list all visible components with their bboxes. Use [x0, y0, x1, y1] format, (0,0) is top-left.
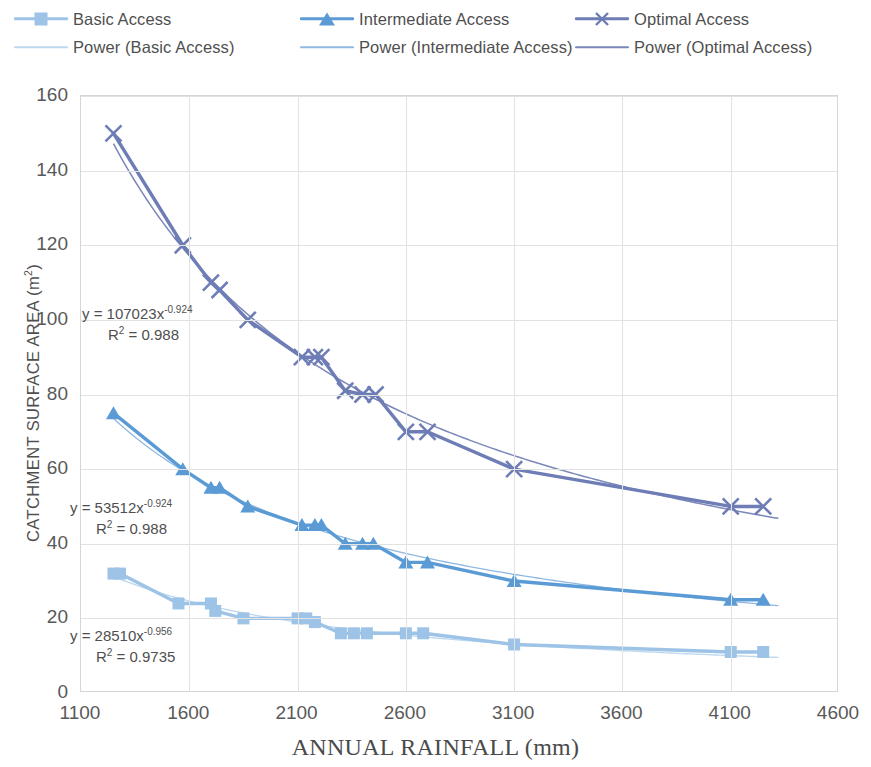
data-point-triangle — [106, 406, 121, 419]
triangle-marker — [300, 9, 354, 29]
data-point-square — [348, 627, 360, 639]
legend-item-label: Power (Basic Access) — [73, 38, 235, 57]
y-axis-title: CATCHMENT SURFACE AREA (m2) — [22, 263, 43, 541]
square-marker — [14, 9, 68, 29]
x-axis-tick-label: 1100 — [60, 702, 101, 724]
intermediate-equation: y = 53512x-0.924R2 = 0.988 — [70, 497, 172, 539]
gridline-horizontal — [81, 618, 837, 619]
y-axis-tick-label: 80 — [47, 383, 68, 405]
equation-text: y = 28510x-0.956 — [70, 627, 172, 644]
legend-row-series: Basic AccessIntermediate AccessOptimal A… — [0, 6, 871, 32]
data-point-square — [335, 627, 347, 639]
trendline — [113, 577, 778, 658]
equation-text: y = 53512x-0.924 — [70, 499, 172, 516]
legend-item[interactable]: Power (Optimal Access) — [575, 34, 812, 60]
gridline-vertical — [514, 96, 515, 691]
y-axis-tick-label: 160 — [36, 84, 68, 106]
data-point-square — [757, 646, 769, 658]
data-point-square — [209, 605, 221, 617]
x-marker — [575, 9, 629, 29]
legend-item[interactable]: Power (Basic Access) — [14, 34, 235, 60]
basic-equation: y = 28510x-0.956R2 = 0.9735 — [70, 625, 175, 667]
chart-container: Basic AccessIntermediate AccessOptimal A… — [0, 0, 871, 767]
gridline-horizontal — [81, 96, 837, 97]
x-axis-tick-label: 4600 — [817, 702, 859, 724]
gridline-horizontal — [81, 320, 837, 321]
y-axis-tick-label: 0 — [57, 681, 68, 703]
legend-line — [575, 46, 629, 48]
x-icon — [593, 10, 611, 28]
square-icon — [35, 13, 48, 26]
gridline-vertical — [406, 96, 407, 691]
legend-row-trendlines: Power (Basic Access)Power (Intermediate … — [0, 34, 871, 60]
gridline-horizontal — [81, 395, 837, 396]
gridline-vertical — [622, 96, 623, 691]
y-axis-tick-label: 140 — [36, 159, 68, 181]
r-squared-text: R2 = 0.9735 — [70, 646, 175, 667]
equation-text: y = 107023x-0.924 — [82, 305, 193, 322]
trendline — [113, 144, 778, 519]
r-squared-text: R2 = 0.988 — [82, 324, 193, 345]
legend-line — [14, 46, 68, 48]
x-axis-tick-label: 4100 — [709, 702, 751, 724]
line-marker — [300, 37, 354, 57]
x-axis-tick-label: 2100 — [275, 702, 317, 724]
gridline-vertical — [189, 96, 190, 691]
chart-legend: Basic AccessIntermediate AccessOptimal A… — [0, 0, 871, 62]
gridline-horizontal — [81, 544, 837, 545]
legend-item-label: Power (Intermediate Access) — [359, 38, 573, 57]
line-marker — [14, 37, 68, 57]
r-squared-text: R2 = 0.988 — [70, 518, 172, 539]
gridline-horizontal — [81, 469, 837, 470]
data-point-x — [105, 125, 121, 141]
data-point-x — [212, 282, 228, 298]
gridline-vertical — [298, 96, 299, 691]
legend-item-label: Power (Optimal Access) — [634, 38, 812, 57]
data-point-square — [114, 568, 126, 580]
gridline-horizontal — [81, 171, 837, 172]
data-point-square — [172, 597, 184, 609]
series-line — [113, 413, 763, 600]
legend-item[interactable]: Basic Access — [14, 6, 171, 32]
y-axis-tick-label: 20 — [47, 606, 68, 628]
x-axis-title: ANNUAL RAINFALL (mm) — [0, 734, 871, 761]
legend-item-label: Optimal Access — [634, 10, 749, 29]
gridline-vertical — [731, 96, 732, 691]
legend-item[interactable]: Intermediate Access — [300, 6, 509, 32]
series-group — [107, 568, 778, 658]
triangle-icon — [319, 13, 335, 26]
legend-item-label: Intermediate Access — [359, 10, 509, 29]
plot-area — [80, 95, 838, 692]
legend-item-label: Basic Access — [73, 10, 171, 29]
y-axis-tick-label: 60 — [47, 457, 68, 479]
legend-item[interactable]: Optimal Access — [575, 6, 749, 32]
data-point-square — [361, 627, 373, 639]
x-axis-tick-label: 1600 — [167, 702, 209, 724]
y-axis-tick-label: 120 — [36, 233, 68, 255]
x-axis-tick-label: 3100 — [492, 702, 534, 724]
x-axis-tick-label: 2600 — [384, 702, 426, 724]
line-marker — [575, 37, 629, 57]
legend-line — [300, 46, 354, 48]
x-axis-tick-label: 3600 — [600, 702, 642, 724]
y-axis-tick-label: 40 — [47, 532, 68, 554]
series-group — [106, 406, 778, 606]
data-point-square — [417, 627, 429, 639]
gridline-horizontal — [81, 245, 837, 246]
legend-item[interactable]: Power (Intermediate Access) — [300, 34, 573, 60]
series-group — [105, 125, 778, 518]
optimal-equation: y = 107023x-0.924R2 = 0.988 — [82, 303, 193, 345]
trendline — [113, 418, 778, 605]
